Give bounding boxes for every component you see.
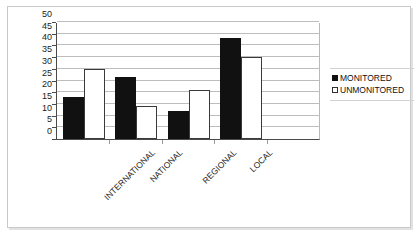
y-axis-tick-label: 30	[18, 56, 52, 65]
y-axis-tick-label: 25	[18, 68, 52, 77]
legend-item: UNMONITORED	[332, 84, 414, 96]
bar-unmonitored	[136, 106, 157, 139]
plot-area	[56, 23, 320, 140]
y-axis-tick-label: 5	[18, 115, 52, 124]
chart-figure: 05101520253035404550 INTERNATIONALNATION…	[0, 0, 419, 237]
bar-group	[109, 23, 161, 139]
bar-monitored	[115, 77, 136, 139]
bar-group	[57, 23, 109, 139]
gridline	[57, 21, 319, 22]
y-axis-tick-label: 0	[18, 127, 52, 136]
legend-item-label: MONITORED	[340, 73, 392, 83]
y-axis-tick-labels: 05101520253035404550	[14, 23, 52, 140]
y-axis-tick-label: 40	[18, 33, 52, 42]
y-axis-tick-label: 20	[18, 80, 52, 89]
bar-monitored	[63, 97, 84, 139]
y-axis-tick-label: 35	[18, 45, 52, 54]
x-axis-tick-label: LOCAL	[248, 147, 275, 174]
hollow-square-icon	[332, 87, 338, 93]
x-axis-tick-labels: INTERNATIONALNATIONALREGIONALLOCAL	[0, 140, 340, 215]
bar-unmonitored	[189, 90, 210, 139]
bar-group	[214, 23, 266, 139]
y-axis-tick-label: 50	[18, 10, 52, 19]
y-axis-tick-label: 15	[18, 91, 52, 100]
filled-square-icon	[332, 75, 338, 81]
bar-group	[162, 23, 214, 139]
chart-legend: MONITOREDUNMONITORED	[330, 68, 414, 101]
legend-item: MONITORED	[332, 72, 414, 84]
y-axis-tick-label: 10	[18, 103, 52, 112]
bar-unmonitored	[84, 69, 105, 139]
bar-unmonitored	[241, 57, 262, 139]
y-axis-tick-label: 45	[18, 21, 52, 30]
x-axis-tick-label: REGIONAL	[200, 147, 238, 185]
bar-monitored	[168, 111, 189, 139]
legend-item-label: UNMONITORED	[340, 85, 404, 95]
bar-monitored	[220, 38, 241, 139]
